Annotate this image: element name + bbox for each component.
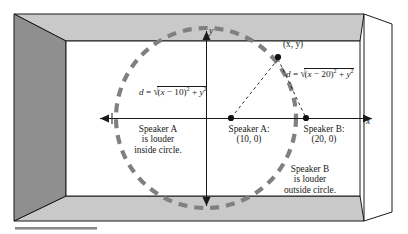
formula-a-plus: + [190,87,200,97]
speaker-a-title: Speaker A: [212,124,286,134]
formula-distance-a: d = √(x − 10)2 + y2 [139,86,207,97]
figure-container: y x (x, y) Speaker A: (10, 0) Speaker B:… [0,0,408,234]
left-wall-panel [14,14,66,221]
formula-b-plus: + [337,69,347,79]
note-inside-circle: Speaker A is louder inside circle. [110,124,206,155]
point-xy-dot [275,54,281,60]
speaker-b-title: Speaker B: [287,124,361,134]
formula-b-minus: − [312,69,322,79]
formula-a-equals: = [146,87,151,97]
formula-a-lhs: d [139,87,144,97]
formula-b-number: 20 [321,69,330,79]
formula-b-lhs: d [286,69,291,79]
formula-a-number: 10 [174,87,183,97]
note-outside-circle: Speaker B is louder outside circle. [258,164,362,195]
point-xy-label: (x, y) [283,39,317,49]
note-inside-line3: inside circle. [110,145,206,155]
y-axis-label: y [209,26,223,37]
formula-b-y-exp: 2 [350,68,353,74]
formula-a-radicand: (x − 10)2 + y2 [157,86,206,97]
speaker-a-coords: (10, 0) [212,134,286,144]
point-speaker-b-dot [303,115,309,121]
speaker-b-point-label: Speaker B: (20, 0) [287,124,361,145]
speaker-a-point-label: Speaker A: (10, 0) [212,124,286,145]
formula-b-radicand: (x − 20)2 + y2 [304,68,353,79]
formula-b-equals: = [293,69,298,79]
floor-panel [14,196,364,221]
speaker-b-coords: (20, 0) [287,134,361,144]
note-outside-line1: Speaker B [258,164,362,174]
formula-a-minus: − [165,87,175,97]
note-inside-line1: Speaker A [110,124,206,134]
caption-rule [15,227,97,230]
note-outside-line2: is louder [258,174,362,184]
formula-distance-b: d = √(x − 20)2 + y2 [286,68,354,79]
formula-a-radical: √(x − 10)2 + y2 [153,86,206,97]
formula-a-y-exp: 2 [203,86,206,92]
formula-b-radical: √(x − 20)2 + y2 [300,68,353,79]
x-axis-label: x [366,116,380,127]
note-outside-line3: outside circle. [258,185,362,195]
note-inside-line2: is louder [110,134,206,144]
point-speaker-a-dot [228,115,234,121]
radical-sign-icon: √ [300,67,305,80]
room-perspective-scene [0,0,408,234]
radical-sign-icon: √ [153,85,158,98]
